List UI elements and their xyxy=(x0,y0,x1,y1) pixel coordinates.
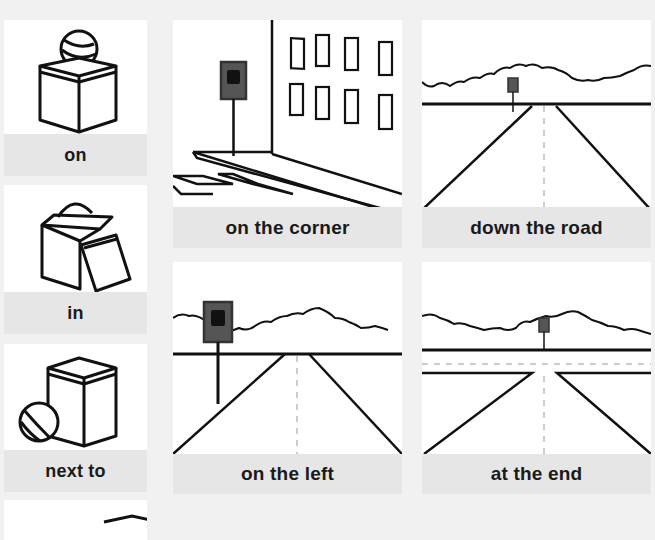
bus-stop-corner-icon xyxy=(173,20,402,207)
label-down-the-road: down the road xyxy=(422,207,651,248)
card-down-the-road: down the road xyxy=(422,20,651,248)
label-next-to: next to xyxy=(4,450,147,492)
card-on: on xyxy=(4,20,147,176)
label-on: on xyxy=(4,134,147,176)
card-at-the-end: at the end xyxy=(422,262,651,494)
bus-stop-down-road-icon xyxy=(422,20,651,207)
ball-in-box-icon xyxy=(4,185,147,292)
label-on-the-left: on the left xyxy=(173,454,402,494)
label-at-the-end: at the end xyxy=(422,454,651,494)
box-partial-icon xyxy=(4,500,147,540)
card-next-to: next to xyxy=(4,344,147,492)
card-on-the-left: on the left xyxy=(173,262,402,494)
card-on-the-corner: on the corner xyxy=(173,20,402,248)
card-partial xyxy=(4,500,147,540)
bus-stop-end-icon xyxy=(422,262,651,454)
bus-stop-left-icon xyxy=(173,262,402,454)
label-on-the-corner: on the corner xyxy=(173,207,402,248)
ball-next-to-box-icon xyxy=(4,344,147,450)
label-in: in xyxy=(4,292,147,334)
ball-on-box-icon xyxy=(4,20,147,134)
card-in: in xyxy=(4,185,147,334)
